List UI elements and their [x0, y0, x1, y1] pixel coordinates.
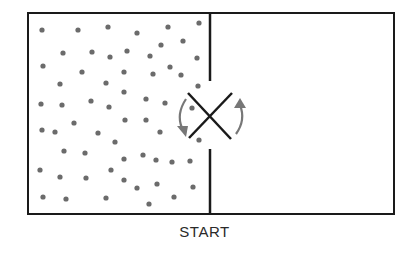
gas-particle	[180, 38, 185, 43]
gas-particle	[121, 69, 126, 74]
gas-particle	[169, 159, 174, 164]
gas-particle	[71, 120, 76, 125]
gas-particle	[40, 63, 45, 68]
gas-particle	[153, 157, 158, 162]
gas-particle	[106, 104, 111, 109]
gas-particle	[59, 102, 64, 107]
gas-particle	[103, 80, 108, 85]
gas-particle	[38, 101, 43, 106]
gas-particle	[146, 201, 151, 206]
gas-particle	[79, 69, 84, 74]
gas-particle	[187, 158, 192, 163]
gas-particle	[134, 185, 139, 190]
gas-particle	[143, 117, 148, 122]
gas-particle	[60, 50, 65, 55]
rotate-arrow-left-icon	[177, 99, 188, 137]
gas-particle	[150, 71, 155, 76]
gas-particle	[95, 130, 100, 135]
gas-particle	[52, 129, 57, 134]
gas-particle	[105, 24, 110, 29]
gas-particle	[121, 156, 126, 161]
gas-particle	[57, 174, 62, 179]
start-caption: START	[0, 223, 409, 240]
rotate-arrow-right-icon	[234, 98, 246, 134]
gas-particle	[88, 98, 93, 103]
gas-particle	[143, 96, 148, 101]
gas-particle	[196, 20, 201, 25]
gas-particle	[83, 175, 88, 180]
gas-particle	[134, 30, 139, 35]
gas-particle	[194, 55, 199, 60]
gas-particle	[165, 24, 170, 29]
gas-particle	[121, 89, 126, 94]
gas-particle	[121, 177, 126, 182]
gas-particles	[37, 20, 201, 206]
gas-particle	[107, 54, 112, 59]
gas-particle	[189, 105, 194, 110]
gas-particle	[178, 72, 183, 77]
gas-particle	[108, 167, 113, 172]
gas-particle	[158, 42, 163, 47]
gas-particle	[112, 139, 117, 144]
gas-particle	[147, 53, 152, 58]
gas-particle	[63, 196, 68, 201]
gas-particle	[167, 64, 172, 69]
gas-particle	[75, 27, 80, 32]
gas-particle	[37, 167, 42, 172]
gas-particle	[196, 137, 201, 142]
gas-particle	[140, 152, 145, 157]
gas-particle	[103, 195, 108, 200]
valve-x-icon	[188, 93, 232, 139]
gas-particle	[124, 48, 129, 53]
gas-particle	[39, 27, 44, 32]
gas-particle	[195, 83, 200, 88]
gas-particle	[162, 100, 167, 105]
gas-particle	[122, 117, 127, 122]
gas-particle	[57, 81, 62, 86]
gas-particle	[82, 150, 87, 155]
gas-particle	[190, 184, 195, 189]
gas-particle	[40, 194, 45, 199]
gas-particle	[61, 148, 66, 153]
gas-particle	[89, 49, 94, 54]
gas-particle	[39, 127, 44, 132]
gas-particle	[171, 194, 176, 199]
gas-particle	[157, 129, 162, 134]
gas-particle	[154, 181, 159, 186]
